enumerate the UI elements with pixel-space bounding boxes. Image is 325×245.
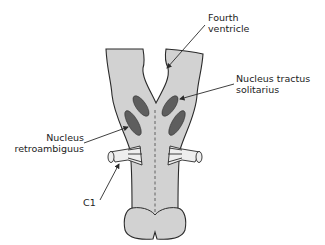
- label-line: ventricle: [208, 23, 249, 34]
- label-line: retroambiguus: [14, 143, 84, 154]
- label-nucleus-retroambiguus: Nucleus retroambiguus: [14, 132, 84, 154]
- label-nucleus-tractus-solitarius: Nucleus tractus solitarius: [236, 73, 310, 95]
- brainstem-diagram: [0, 0, 325, 245]
- pointer-c1: [100, 164, 119, 200]
- brainstem-body: [106, 49, 203, 239]
- label-line: Nucleus tractus: [236, 73, 310, 84]
- label-fourth-ventricle: Fourth ventricle: [208, 12, 249, 34]
- pointer-nra: [84, 127, 128, 143]
- c1-root-left: [108, 146, 142, 165]
- label-line: solitarius: [236, 84, 310, 95]
- label-c1: C1: [83, 197, 96, 208]
- label-line: Nucleus: [14, 132, 84, 143]
- label-line: Fourth: [208, 12, 249, 23]
- c1-root-right: [168, 146, 202, 165]
